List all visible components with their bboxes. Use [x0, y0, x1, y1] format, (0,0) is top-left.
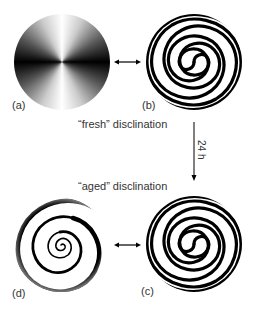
- aged-caption: “aged” disclination: [78, 180, 167, 192]
- panel-d-label: (d): [12, 287, 25, 299]
- panel-a-disc: [14, 14, 110, 110]
- panel-d-disc: [14, 198, 110, 292]
- panel-c-label: (c): [141, 285, 154, 297]
- fresh-caption: “fresh” disclination: [78, 118, 167, 130]
- panel-b-disc: [146, 14, 242, 110]
- time-label: 24 h: [196, 140, 207, 159]
- panel-c-disc: [146, 196, 242, 292]
- arrow-a-b: [114, 60, 141, 65]
- panel-a-label: (a): [12, 99, 25, 111]
- arrow-d-c: [114, 243, 141, 248]
- figure-canvas: [0, 0, 256, 314]
- panel-b-label: (b): [142, 99, 155, 111]
